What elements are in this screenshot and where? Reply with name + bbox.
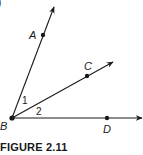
point-b (9, 115, 14, 120)
angle-label-2: 2 (36, 106, 42, 117)
label-b: B (0, 120, 7, 132)
point-a (41, 33, 45, 37)
ray-ba (12, 7, 54, 118)
ray-bc (12, 62, 113, 118)
figure-caption: FIGURE 2.11 (0, 141, 68, 153)
angle-diagram: A C B D 1 2 (0, 0, 143, 155)
label-d: D (103, 123, 111, 135)
point-d (105, 116, 109, 120)
label-a: A (28, 29, 36, 41)
point-c (85, 74, 89, 78)
label-c: C (84, 60, 92, 72)
angle-label-1: 1 (22, 95, 28, 106)
